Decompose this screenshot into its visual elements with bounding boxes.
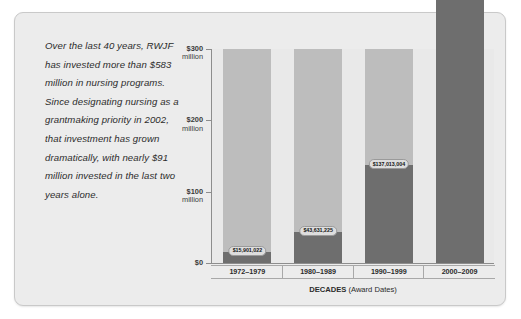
chart-screenshot: Over the last 40 years, RWJF has investe… [0,0,521,319]
y-tick-amount: $200 [187,115,203,124]
bar-value-label: $43,631,225 [299,226,336,236]
bar-track [223,49,271,263]
x-axis-title-main: DECADES [309,285,348,294]
y-tick-amount: $0 [195,258,203,267]
bar-column[interactable]: $137,013,004 [365,49,413,263]
x-tick-label: 1972–1979 [212,265,282,278]
y-tick-unit: million [147,125,203,133]
x-axis-title: DECADES (Award Dates) [211,285,495,294]
y-tick-mark [206,192,211,193]
x-tick-label: 1990–1999 [354,265,424,278]
bar-value-label: $15,901,022 [229,246,266,256]
bar-group: $15,901,022$43,631,225$137,013,004$386,3… [212,49,494,263]
x-axis-line [211,263,494,264]
x-axis-title-sub: (Award Dates) [348,285,396,294]
x-label-separator [282,265,283,278]
y-tick-unit: million [147,53,203,61]
bar[interactable] [365,165,413,263]
x-label-separator [423,265,424,278]
bar-column[interactable]: $15,901,022 [223,49,271,263]
x-label-rule-bottom [211,278,495,279]
y-tick-mark [206,263,211,264]
x-tick-label: 2000–2009 [425,265,495,278]
x-label-separator [353,265,354,278]
y-tick-label: $300million [147,45,203,62]
y-tick-label: $200million [147,116,203,133]
chart-card: Over the last 40 years, RWJF has investe… [14,12,506,306]
bar[interactable] [294,232,342,263]
bar-column[interactable]: $43,631,225 [294,49,342,263]
plot-area: $0$100million$200million$300million $15,… [211,49,494,263]
y-tick-label: $100million [147,188,203,205]
y-tick-mark [206,49,211,50]
y-tick-mark [206,120,211,121]
bar-value-label: $137,013,004 [369,159,409,169]
x-tick-label: 1980–1989 [283,265,353,278]
y-tick-label: $0 [147,259,203,267]
bar-column[interactable]: $386,382,599 [436,49,484,263]
bar[interactable] [436,0,484,263]
y-tick-unit: million [147,196,203,204]
